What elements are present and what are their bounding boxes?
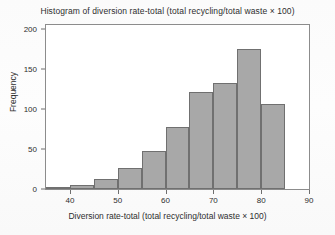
histogram-bar [142, 151, 166, 189]
x-tick-mark [166, 190, 167, 194]
y-tick-label: 0 [33, 185, 37, 194]
x-tick-mark [70, 190, 71, 194]
histogram-bar [189, 92, 213, 189]
y-tick-label: 150 [24, 65, 37, 74]
chart-title: Histogram of diversion rate-total (total… [0, 6, 335, 16]
x-tick-mark [309, 190, 310, 194]
histogram-bar [94, 179, 118, 189]
histogram-bar [46, 187, 70, 189]
x-tick-mark [118, 190, 119, 194]
x-tick-mark [261, 190, 262, 194]
x-tick-label: 90 [305, 196, 314, 205]
y-axis: 050100150200 [0, 24, 45, 190]
histogram-bar [166, 127, 190, 189]
x-tick-label: 40 [65, 196, 74, 205]
histogram-figure: Histogram of diversion rate-total (total… [0, 0, 335, 235]
x-tick-label: 80 [257, 196, 266, 205]
x-axis: 405060708090 [45, 190, 310, 208]
x-tick-label: 50 [113, 196, 122, 205]
histogram-bar [237, 49, 261, 189]
histogram-bar [261, 104, 285, 189]
y-axis-title: Frequency [8, 52, 18, 132]
histogram-bar [213, 83, 237, 189]
plot-area [45, 24, 310, 190]
x-tick-mark [213, 190, 214, 194]
histogram-bar [70, 185, 94, 189]
x-tick-label: 60 [161, 196, 170, 205]
y-tick-label: 200 [24, 25, 37, 34]
histogram-bar [118, 168, 142, 189]
x-tick-label: 70 [209, 196, 218, 205]
x-axis-title: Diversion rate-total (total recycling/to… [0, 211, 335, 221]
y-tick-label: 50 [28, 145, 37, 154]
y-tick-label: 100 [24, 105, 37, 114]
